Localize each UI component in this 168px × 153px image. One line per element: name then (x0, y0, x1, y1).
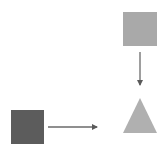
triangle-node (123, 98, 157, 133)
diagram-canvas (0, 0, 168, 153)
top-square-node (123, 12, 157, 46)
bottom-left-square-node (11, 110, 44, 144)
